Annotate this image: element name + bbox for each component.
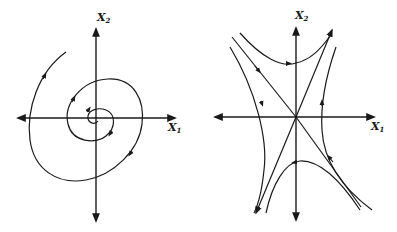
spiral-trajectory [29,52,142,181]
stable-manifold-se [296,117,361,207]
trajectory-right [322,47,372,210]
trajectory-left-arrow [261,101,262,104]
x2-label-right: X2 [294,9,309,23]
x1-label-left: X1 [167,121,181,135]
stable-arrow-nw [255,66,259,71]
trajectory-top [240,33,330,64]
x1-label-right: X1 [370,120,384,134]
unstable-manifold-up [296,30,332,117]
x2-label-left: X2 [96,11,111,25]
trajectory-bottom-arrow [294,162,297,163]
phase-portraits-figure: X2 X1 X2 X1 [0,0,397,232]
stable-manifold-nw [232,37,296,117]
left-panel-spiral: X2 X1 [18,11,181,221]
spiral-arrow-1 [87,109,89,112]
right-panel-saddle: X2 X1 [215,9,384,220]
